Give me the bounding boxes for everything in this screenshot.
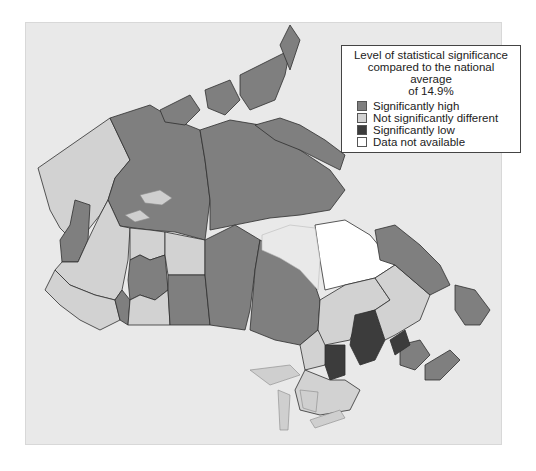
- legend-label: Data not available: [373, 136, 465, 148]
- region-saskatchewan-north: [165, 232, 205, 275]
- legend-label: Significantly high: [373, 100, 459, 112]
- lake-michigan: [278, 390, 290, 430]
- legend-item-significantly-high: Significantly high: [357, 100, 514, 112]
- legend-label: Significantly low: [373, 124, 455, 136]
- legend-item-not-significantly-different: Not significantly different: [357, 112, 514, 124]
- legend: Level of statistical significance compar…: [341, 45, 521, 153]
- region-ontario-northeast: [325, 345, 345, 380]
- region-arctic-islands: [205, 80, 240, 115]
- region-newfoundland: [455, 285, 490, 325]
- legend-swatch-not-different: [357, 113, 367, 123]
- legend-title-line3: of 14.9%: [348, 85, 514, 97]
- region-arctic-islands: [240, 50, 290, 110]
- legend-title-line2: compared to the national average: [348, 61, 514, 85]
- region-nova-scotia: [425, 350, 460, 380]
- legend-item-data-not-available: Data not available: [357, 136, 514, 148]
- region-alberta-north: [130, 228, 165, 260]
- region-saskatchewan-south: [168, 275, 210, 325]
- legend-swatch-low: [357, 125, 367, 135]
- lake-superior: [250, 365, 300, 385]
- legend-swatch-high: [357, 101, 367, 111]
- region-alberta-central: [128, 255, 168, 300]
- legend-swatch-na: [357, 137, 367, 147]
- region-nwt: [108, 105, 210, 240]
- legend-label: Not significantly different: [373, 112, 498, 124]
- legend-item-significantly-low: Significantly low: [357, 124, 514, 136]
- region-arctic-islands: [160, 95, 200, 125]
- legend-title-line1: Level of statistical significance: [348, 49, 514, 61]
- legend-title: Level of statistical significance compar…: [348, 49, 514, 97]
